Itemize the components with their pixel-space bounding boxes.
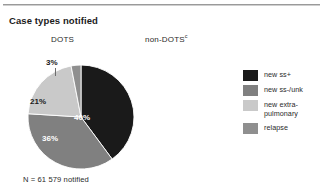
legend-item-new-extra-pulmonary: new extra- pulmonary	[243, 100, 323, 118]
legend-item-new-ss-unk: new ss-/unk	[243, 85, 323, 96]
legend-swatch-relapse	[243, 123, 258, 134]
pie-slice-label-relapse: 3%	[46, 58, 58, 67]
legend-item-new-ss-plus: new ss+	[243, 70, 323, 81]
figure-canvas: Case types notified DOTS non-DOTSc 40% 3…	[0, 0, 323, 195]
legend-label-new-extra-pulmonary: new extra- pulmonary	[264, 100, 298, 118]
column-header-dots: DOTS	[51, 35, 74, 44]
pie-slice-label-new-ss-unk: 36%	[42, 134, 58, 143]
legend-swatch-new-ss-plus	[243, 70, 258, 81]
pie-slice-label-new-ss-plus: 40%	[74, 113, 90, 122]
legend-label-relapse: relapse	[264, 123, 288, 133]
legend-label-new-ss-plus: new ss+	[264, 70, 291, 80]
legend-item-relapse: relapse	[243, 123, 323, 134]
legend-swatch-new-ss-unk	[243, 85, 258, 96]
pie-slice-label-new-extra-pulmonary: 21%	[30, 97, 46, 106]
legend-label-new-ss-unk: new ss-/unk	[264, 85, 303, 95]
legend-swatch-new-extra-pulmonary	[243, 100, 258, 111]
total-caption: N = 61 579 notified	[23, 175, 89, 184]
top-rule-shadow	[3, 5, 320, 6]
chart-legend: new ss+ new ss-/unk new extra- pulmonary…	[243, 70, 323, 138]
slice-leader-line	[55, 68, 56, 76]
column-header-non-dots-label: non-DOTS	[145, 35, 185, 44]
column-header-non-dots-footnote: c	[185, 33, 188, 39]
column-header-non-dots: non-DOTSc	[145, 35, 188, 44]
page-title: Case types notified	[9, 15, 98, 26]
